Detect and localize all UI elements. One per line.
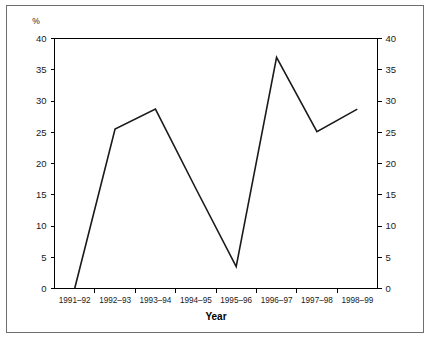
y-tick-label-right: 15 [386, 189, 397, 200]
y-tick-label-left: 15 [36, 189, 47, 200]
y-tick-label-left: 25 [36, 127, 47, 138]
line-chart-canvas: % 0510152025303540 0510152025303540 1991… [0, 0, 431, 344]
y-axis-right-ticks: 0510152025303540 [378, 33, 397, 294]
y-axis-left-ticks: 0510152025303540 [36, 33, 55, 294]
y-tick-label-right: 40 [386, 33, 397, 44]
y-axis-unit-label: % [32, 16, 40, 26]
chart-figure: % 0510152025303540 0510152025303540 1991… [0, 0, 431, 344]
y-tick-label-right: 35 [386, 64, 397, 75]
y-tick-label-left: 5 [41, 252, 46, 263]
y-tick-label-left: 40 [36, 33, 47, 44]
x-tick-label: 1996–97 [261, 296, 293, 305]
x-tick-label: 1992–93 [99, 296, 131, 305]
data-series-line [75, 57, 358, 288]
x-tick-label: 1997–98 [301, 296, 333, 305]
x-tick-label: 1998–99 [341, 296, 373, 305]
y-tick-label-left: 30 [36, 95, 47, 106]
x-tick-label: 1994–95 [180, 296, 212, 305]
y-tick-label-right: 25 [386, 127, 397, 138]
y-tick-label-right: 10 [386, 220, 397, 231]
x-tick-label: 1991–92 [59, 296, 91, 305]
y-tick-label-right: 0 [386, 283, 391, 294]
x-axis-title: Year [205, 311, 226, 322]
y-tick-label-left: 20 [36, 158, 47, 169]
y-tick-label-left: 0 [41, 283, 46, 294]
x-axis-ticks: 1991–921992–931993–941994–951995–961996–… [59, 289, 374, 305]
axes-group [55, 39, 378, 289]
y-tick-label-right: 5 [386, 252, 391, 263]
x-tick-label: 1995–96 [220, 296, 252, 305]
y-tick-label-right: 20 [386, 158, 397, 169]
x-tick-label: 1993–94 [140, 296, 172, 305]
y-tick-label-right: 30 [386, 95, 397, 106]
y-tick-label-left: 35 [36, 64, 47, 75]
y-tick-label-left: 10 [36, 220, 47, 231]
